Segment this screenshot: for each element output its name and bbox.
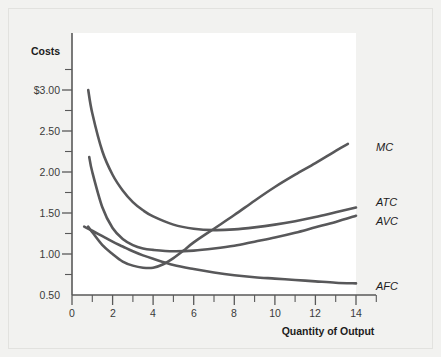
series-label-atc: ATC: [376, 196, 397, 208]
y-tick-label-1-50: 1.50: [16, 207, 60, 219]
y-axis-title: Costs: [31, 45, 60, 57]
curve-layer: [84, 90, 356, 283]
series-label-avc: AVC: [376, 215, 398, 227]
curve-avc: [89, 157, 356, 251]
curve-afc: [84, 227, 356, 284]
x-tick-label-10: 10: [261, 307, 289, 319]
x-tick-label-12: 12: [301, 307, 329, 319]
x-tick-label-0: 0: [58, 307, 86, 319]
x-axis-title: Quantity of Output: [282, 325, 375, 337]
x-tick-label-8: 8: [220, 307, 248, 319]
chart-canvas: [0, 0, 441, 357]
x-axis-ticks: [72, 295, 376, 305]
y-tick-label-2-50: 2.50: [16, 125, 60, 137]
series-label-afc: AFC: [376, 280, 398, 292]
y-tick-label-2-00: 2.00: [16, 166, 60, 178]
y-tick-label-0-50: 0.50: [16, 289, 60, 301]
x-tick-label-2: 2: [99, 307, 127, 319]
x-tick-label-14: 14: [342, 307, 370, 319]
axis-lines: [72, 33, 376, 295]
y-tick-label-3-00: $3.00: [16, 84, 60, 96]
y-axis-ticks: [62, 70, 72, 275]
x-tick-label-6: 6: [180, 307, 208, 319]
curve-atc: [88, 90, 356, 230]
y-tick-label-1-00: 1.00: [16, 248, 60, 260]
cost-curves-figure: Costs $3.00 2.50 2.00 1.50 1.00 0.50 0 2…: [0, 0, 441, 357]
x-tick-label-4: 4: [139, 307, 167, 319]
series-label-mc: MC: [376, 141, 393, 153]
